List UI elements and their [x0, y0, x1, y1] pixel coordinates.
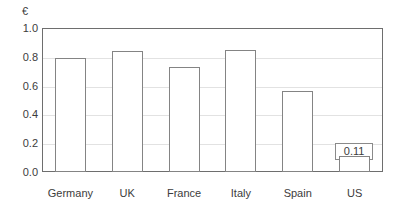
bar-slot: 0.85	[213, 28, 270, 172]
x-axis-category-label: Germany	[42, 186, 99, 200]
bar-slot: 0.56	[269, 28, 326, 172]
bar-slot: 0.79	[42, 28, 99, 172]
bar-slot: 0.73	[156, 28, 213, 172]
x-axis-category-label: Spain	[269, 186, 326, 200]
y-axis-tick-label: 0.4	[4, 109, 38, 120]
bar-slot: 0.11	[326, 28, 383, 172]
bar[interactable]	[225, 50, 256, 172]
x-axis-category-labels: GermanyUKFranceItalySpainUS	[42, 186, 383, 204]
bar[interactable]	[339, 156, 370, 172]
bar[interactable]	[169, 67, 200, 172]
y-axis-tick-labels: 1.00.80.60.40.20.0	[0, 0, 38, 208]
y-axis-tick-label: 0.6	[4, 81, 38, 92]
y-axis-tick-label: 0.8	[4, 52, 38, 63]
y-axis-tick-label: 1.0	[4, 23, 38, 34]
x-axis-category-label: France	[156, 186, 213, 200]
x-axis-category-label: Italy	[213, 186, 270, 200]
y-axis-tick-label: 0.2	[4, 138, 38, 149]
bar-chart: € 1.00.80.60.40.20.0 0.790.840.730.850.5…	[0, 0, 401, 208]
bar[interactable]	[55, 58, 86, 172]
y-axis-tick-label: 0.0	[4, 167, 38, 178]
x-axis-category-label: UK	[99, 186, 156, 200]
x-axis-category-label: US	[326, 186, 383, 200]
bar-series: 0.790.840.730.850.560.11	[42, 28, 383, 172]
bar-slot: 0.84	[99, 28, 156, 172]
bar[interactable]	[112, 51, 143, 172]
bar[interactable]	[282, 91, 313, 172]
